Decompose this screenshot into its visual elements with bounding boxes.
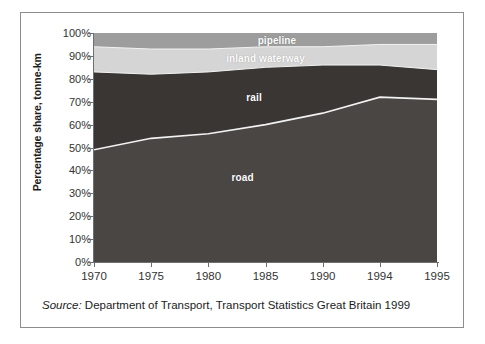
- x-axis-tick-mark: [94, 263, 95, 267]
- y-axis-tick-label: 100%: [25, 28, 91, 39]
- series-label-road: road: [232, 172, 254, 183]
- y-axis-tick-mark: [88, 239, 93, 240]
- series-label-inland-waterway: inland waterway: [226, 53, 305, 64]
- y-axis-tick-label: 30%: [25, 188, 91, 199]
- y-axis-tick-mark: [88, 216, 93, 217]
- x-axis-tick-mark: [323, 263, 324, 267]
- y-axis-tick-label: 80%: [25, 73, 91, 84]
- x-axis-tick-mark: [380, 263, 381, 267]
- y-axis-tick-mark: [88, 102, 93, 103]
- y-axis-tick-mark: [88, 193, 93, 194]
- y-axis-tick-label: 60%: [25, 119, 91, 130]
- area-series-svg: [94, 33, 438, 262]
- y-axis-tick-label: 20%: [25, 211, 91, 222]
- y-axis-tick-mark: [88, 262, 93, 263]
- y-axis-tick-label: 0%: [25, 257, 91, 268]
- source-text: Department of Transport, Transport Stati…: [85, 299, 410, 311]
- chart-outer-frame: Percentage share, tonne-km 0%10%20%30%40…: [20, 12, 464, 328]
- x-axis-tick-mark: [151, 263, 152, 267]
- x-axis-tick-label: 1994: [350, 271, 410, 283]
- x-axis-tick-label: 1970: [64, 271, 124, 283]
- y-axis-tick-mark: [88, 79, 93, 80]
- y-axis-tick-mark: [88, 56, 93, 57]
- x-axis-tick-label: 1975: [121, 271, 181, 283]
- x-axis-tick-label: 1985: [236, 271, 296, 283]
- x-axis-tick-label: 1990: [293, 271, 353, 283]
- source-divider: [21, 285, 465, 286]
- x-axis-tick-mark: [208, 263, 209, 267]
- x-axis-tick-mark: [437, 263, 438, 267]
- y-axis-tick-mark: [88, 33, 93, 34]
- x-axis-tick-label: 1980: [178, 271, 238, 283]
- series-label-pipeline: pipeline: [258, 34, 297, 45]
- source-prefix: Source:: [42, 299, 82, 311]
- x-axis-tick-label: 1995: [407, 271, 467, 283]
- y-axis-tick-mark: [88, 170, 93, 171]
- y-axis-tick-label: 10%: [25, 234, 91, 245]
- y-axis-tick-label: 90%: [25, 50, 91, 61]
- chart-area-plot: Percentage share, tonne-km 0%10%20%30%40…: [21, 13, 465, 283]
- y-axis-tick-label: 50%: [25, 142, 91, 153]
- y-axis-tick-label: 40%: [25, 165, 91, 176]
- stacked-area-plot: [94, 33, 438, 262]
- y-axis-tick-mark: [88, 148, 93, 149]
- y-axis-tick-labels: 0%10%20%30%40%50%60%70%80%90%100%: [21, 13, 91, 283]
- y-axis-tick-mark: [88, 125, 93, 126]
- x-axis-tick-mark: [266, 263, 267, 267]
- y-axis-tick-label: 70%: [25, 96, 91, 107]
- figure-canvas: Percentage share, tonne-km 0%10%20%30%40…: [0, 0, 485, 344]
- series-label-rail: rail: [246, 92, 261, 103]
- source-caption: Source: Department of Transport, Transpo…: [42, 300, 410, 312]
